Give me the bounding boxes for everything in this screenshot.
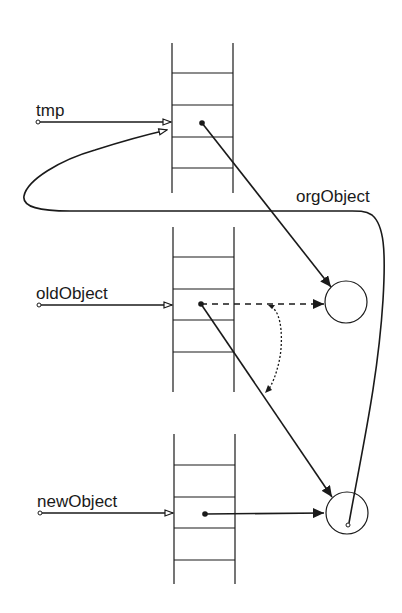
oldObject-label: oldObject — [36, 285, 108, 302]
newObject-label: newObject — [37, 493, 117, 510]
orgObject-label: orgObject — [296, 188, 370, 205]
oldObject-new-reference-arrow — [201, 304, 332, 497]
diagram-canvas — [0, 0, 402, 613]
tmp-label: tmp — [36, 102, 64, 119]
oldObject-old-reference-dashed-arrow — [198, 301, 324, 307]
reference-diagram: tmp orgObject oldObject newObject — [0, 0, 402, 613]
newObject-stack — [174, 434, 235, 584]
oldObject-stack — [173, 227, 234, 392]
object-circle-1 — [325, 281, 367, 323]
newObject-pointer-arrow — [38, 511, 173, 515]
oldObject-pointer-arrow — [37, 303, 172, 307]
tmp-pointer-arrow — [36, 120, 171, 124]
object-circle-2 — [326, 492, 368, 534]
reassignment-curved-dotted-arrow — [265, 305, 281, 393]
tmp-stack — [172, 43, 233, 193]
newObject-reference-arrow — [202, 511, 324, 517]
